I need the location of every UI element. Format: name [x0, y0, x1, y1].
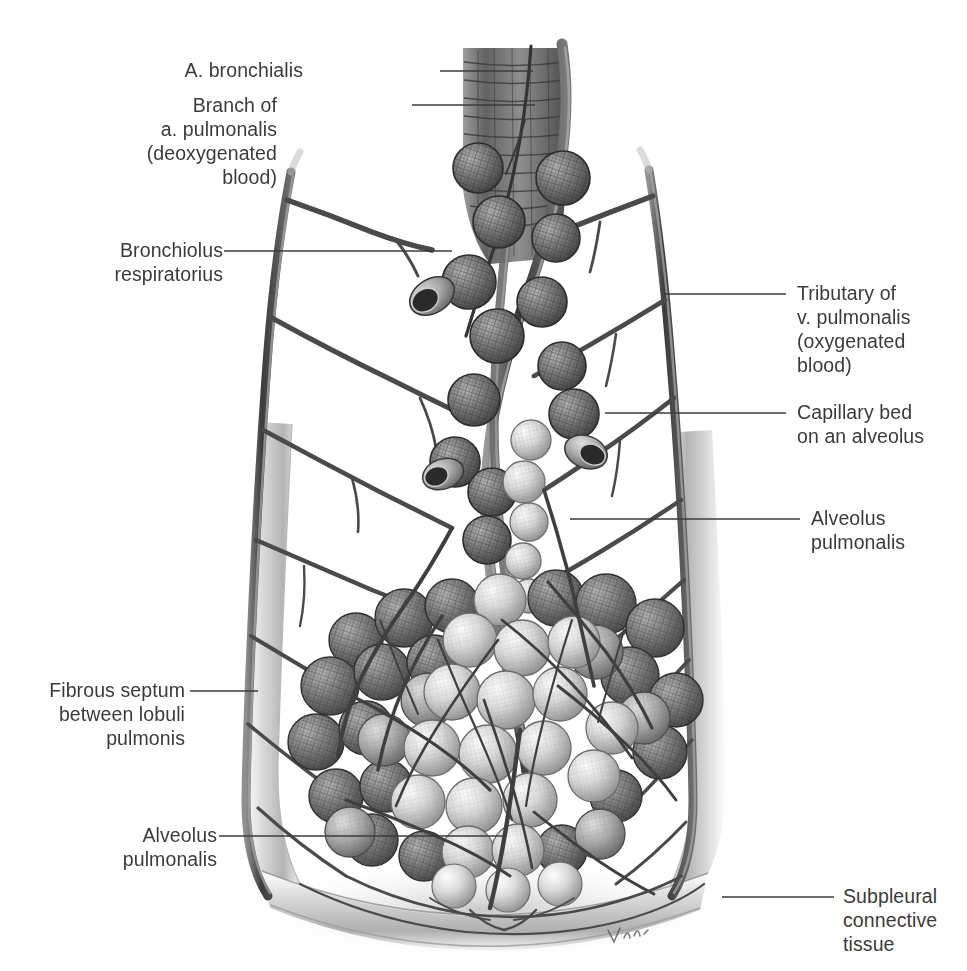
anatomy-figure: A. bronchialis Branch of a. pulmonalis (…	[0, 0, 967, 971]
label-fibrous-septum: Fibrous septum between lobuli pulmonis	[49, 678, 185, 750]
label-capillary-bed: Capillary bed on an alveolus	[797, 400, 924, 448]
label-bronchiolus-respiratorius: Bronchiolus respiratorius	[114, 238, 223, 286]
label-alveolus-pulmonalis-upper: Alveolus pulmonalis	[811, 506, 905, 554]
label-tributary-v-pulmonalis: Tributary of v. pulmonalis (oxygenated b…	[797, 281, 911, 377]
label-alveolus-pulmonalis-lower: Alveolus pulmonalis	[123, 823, 217, 871]
label-subpleural-connective-tissue: Subpleural connective tissue	[843, 884, 937, 956]
label-branch-a-pulmonalis: Branch of a. pulmonalis (deoxygenated bl…	[147, 93, 277, 189]
alveolar-duct-openings	[403, 269, 613, 495]
alveolar-sac-cluster	[288, 570, 703, 912]
label-a-bronchialis: A. bronchialis	[185, 58, 303, 82]
upper-alveolus-chain	[403, 143, 613, 613]
